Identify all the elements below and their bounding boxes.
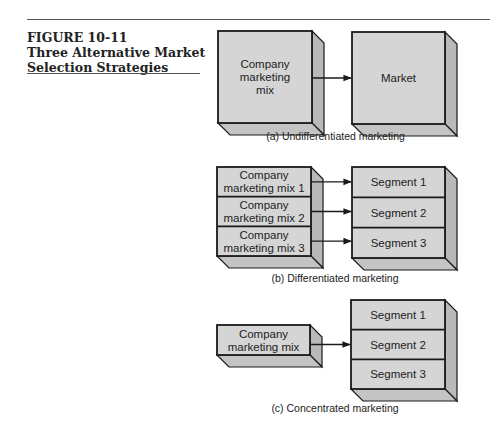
segments-box-bottom — [352, 258, 457, 270]
company-mix-box-label: marketing mix 3 — [223, 242, 304, 254]
company-mix-box-label: marketing mix 2 — [223, 212, 304, 224]
company-mix-box-label: Company — [239, 229, 288, 241]
panel-c: Companymarketing mixSegment 1Segment 2Se… — [217, 300, 457, 414]
company-mix-box-side — [312, 31, 324, 135]
company-mix-box-bottom — [217, 355, 322, 367]
segments-box-label: Segment 1 — [370, 309, 426, 321]
panel-caption: (a) Undifferentiated marketing — [266, 130, 405, 142]
panel-b: Companymarketing mix 1Companymarketing m… — [217, 167, 457, 284]
market-box-label: Market — [381, 72, 417, 84]
company-mix-box-bottom — [217, 256, 323, 268]
market-box-side — [445, 32, 457, 136]
panel-a: CompanymarketingmixMarket(a) Undifferent… — [218, 31, 457, 142]
segments-box-label: Segment 1 — [371, 176, 427, 188]
segments-box-side — [445, 300, 457, 401]
company-mix-box-label: Company — [239, 169, 288, 181]
company-mix-box-label: Company — [239, 199, 288, 211]
segments-box-side — [445, 167, 457, 270]
segments-box-bottom — [351, 389, 457, 401]
segments-box-label: Segment 2 — [371, 207, 427, 219]
company-mix-box-label: marketing — [240, 71, 291, 83]
company-mix-box-label: Company — [239, 328, 288, 340]
panel-caption: (c) Concentrated marketing — [271, 402, 398, 414]
segments-box-label: Segment 3 — [371, 237, 427, 249]
company-mix-box-label: mix — [256, 84, 274, 96]
company-mix-box-label: Company — [240, 58, 289, 70]
panel-caption: (b) Differentiated marketing — [271, 272, 398, 284]
market-strategy-diagram: CompanymarketingmixMarket(a) Undifferent… — [0, 0, 490, 430]
segments-box-label: Segment 2 — [370, 339, 426, 351]
company-mix-box-label: marketing mix — [228, 341, 300, 353]
company-mix-box-label: marketing mix 1 — [223, 182, 304, 194]
segments-box-label: Segment 3 — [370, 368, 426, 380]
